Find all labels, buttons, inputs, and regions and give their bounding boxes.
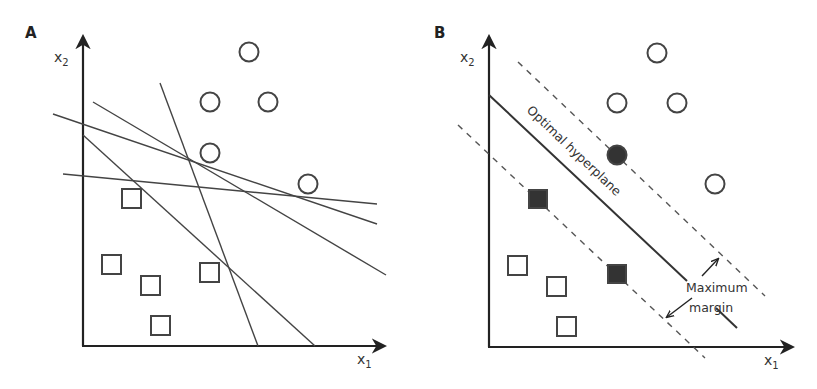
- optimal-hyperplane: [489, 95, 687, 281]
- support-vector-square: [608, 265, 626, 283]
- square-point: [200, 263, 219, 282]
- circle-point: [608, 94, 627, 113]
- class-squares: [508, 190, 626, 336]
- circle-point: [240, 43, 259, 62]
- circle-point: [201, 93, 220, 112]
- circle-point: [259, 93, 278, 112]
- panel-b: B x2 x1 Optimal hyperplane Maximum margi…: [434, 24, 792, 371]
- x-axis-label: x1: [357, 351, 372, 370]
- square-point: [141, 276, 160, 295]
- panel-a: A x2 x1: [25, 24, 386, 370]
- circle-point: [668, 94, 687, 113]
- class-circles: [608, 44, 725, 194]
- candidate-line: [53, 114, 377, 224]
- panel-b-label: B: [434, 24, 445, 42]
- svm-figure: A x2 x1: [0, 0, 817, 389]
- support-vector-circle: [608, 146, 627, 165]
- y-axis-label: x2: [460, 49, 475, 68]
- square-point: [151, 316, 170, 335]
- panel-a-label: A: [25, 24, 37, 42]
- circle-point: [706, 175, 725, 194]
- margin-label-line2: margin: [689, 300, 733, 315]
- margin-label-line1: Maximum: [686, 280, 748, 295]
- candidate-line: [63, 174, 377, 204]
- square-point: [547, 277, 566, 296]
- square-point: [557, 317, 576, 336]
- class-squares: [102, 189, 219, 335]
- candidate-line: [83, 135, 315, 346]
- candidate-line: [160, 83, 258, 346]
- circle-point: [648, 44, 667, 63]
- square-point: [122, 189, 141, 208]
- x-axis-label: x1: [764, 352, 779, 371]
- circle-point: [201, 144, 220, 163]
- candidate-lines: [53, 83, 386, 346]
- upper-margin-line: [518, 62, 765, 296]
- square-point: [102, 255, 121, 274]
- class-circles: [201, 43, 318, 194]
- square-point: [508, 256, 527, 275]
- margin-arrow-up: [702, 259, 718, 276]
- y-axis-label: x2: [54, 49, 69, 68]
- circle-point: [299, 175, 318, 194]
- support-vector-square: [529, 190, 547, 208]
